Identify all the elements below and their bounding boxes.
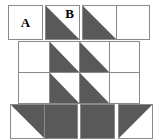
triangle-shape xyxy=(50,73,79,103)
tile-cell-solid xyxy=(44,105,77,138)
tile-cell-tri-bottom-left: B xyxy=(46,6,79,39)
tile-cell-tri-top-right xyxy=(11,105,44,138)
tile-cell-empty: A xyxy=(9,6,42,39)
tile-row xyxy=(19,42,139,72)
tile-cell-tri-bottom-left xyxy=(49,42,79,72)
tile-cell-tri-bottom-left xyxy=(79,73,109,103)
triangle-shape xyxy=(119,105,152,138)
triangle-shape xyxy=(11,105,44,138)
tile-cell-solid xyxy=(81,105,114,138)
solid-fill xyxy=(81,105,114,138)
triangle-shape xyxy=(83,6,116,39)
triangle-shape xyxy=(80,42,109,72)
tile-cell-tri-bottom-left xyxy=(83,6,116,39)
tile-cell-empty xyxy=(19,42,49,72)
tile-cell-tri-top-left xyxy=(119,105,152,138)
tile-label: B xyxy=(46,6,79,39)
middle-grid-4x2 xyxy=(18,41,140,104)
bottom-solid-square-1 xyxy=(80,104,115,139)
bottom-solid-square-2 xyxy=(118,104,153,139)
tile-cell-empty xyxy=(116,6,149,39)
bottom-domino-left xyxy=(10,104,78,139)
tile-row: B xyxy=(46,6,79,39)
tile-row xyxy=(19,72,139,103)
tile-row xyxy=(81,105,114,138)
solid-fill xyxy=(45,105,77,138)
triangle-shape xyxy=(50,42,79,72)
triangle-shape xyxy=(80,73,109,103)
domino-top-right xyxy=(82,5,150,40)
tile-cell-empty xyxy=(109,42,139,72)
tile-row xyxy=(83,6,149,39)
tile-row xyxy=(11,105,77,138)
tile-row: A xyxy=(9,6,42,39)
tile-cell-tri-bottom-left xyxy=(79,42,109,72)
puzzle-figure: AB xyxy=(0,0,154,140)
square-a: A xyxy=(8,5,43,40)
square-b: B xyxy=(45,5,80,40)
tile-cell-empty xyxy=(19,73,49,103)
tile-label: A xyxy=(9,6,42,39)
tile-row xyxy=(119,105,152,138)
tile-cell-empty xyxy=(109,73,139,103)
tile-cell-tri-bottom-left xyxy=(49,73,79,103)
